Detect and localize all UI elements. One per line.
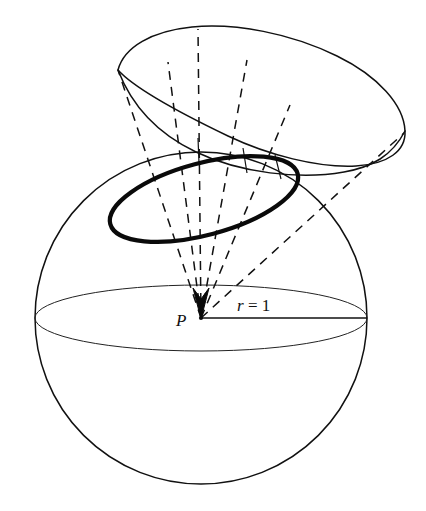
radius-label: r = 1 [237, 297, 270, 314]
point-p-label: P [176, 312, 186, 329]
radius-symbol: r [237, 296, 244, 315]
far-surface-patch [118, 26, 405, 166]
apex-arrowhead [193, 288, 209, 320]
far-patch-outline [118, 26, 405, 166]
radius-equals: = [244, 296, 262, 315]
bold-cap-ellipse-group [101, 139, 307, 259]
cone-front-lip [118, 70, 405, 175]
ray-2 [168, 62, 201, 318]
ray-3-center [198, 29, 201, 318]
diagram-canvas [0, 0, 426, 511]
ray-4 [201, 60, 247, 318]
figure-container: P r = 1 [0, 0, 426, 511]
bold-cap-ellipse [101, 139, 307, 259]
radius-value: 1 [262, 296, 271, 315]
